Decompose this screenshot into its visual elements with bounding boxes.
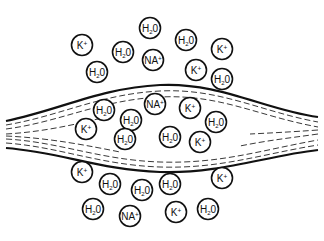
potassium-ion: K+ (166, 202, 187, 223)
molecules-layer: H20H20K+H20NA+K+K+H20H20H20NA+K+H20K+H20… (72, 18, 233, 227)
water-molecule: H20 (206, 112, 227, 133)
membrane-inner-line (240, 134, 318, 146)
water-molecule: H20 (113, 42, 134, 63)
sodium-ion: NA+ (120, 206, 141, 227)
potassium-ion: K+ (186, 60, 207, 81)
membrane-diagram: H20H20K+H20NA+K+K+H20H20H20NA+K+H20K+H20… (0, 0, 324, 241)
potassium-ion: K+ (212, 39, 233, 60)
water-molecule: H20 (83, 199, 104, 220)
potassium-ion: K+ (190, 132, 211, 153)
potassium-ion: K+ (76, 119, 97, 140)
membrane-inner-line (250, 130, 318, 134)
water-molecule: H20 (87, 62, 108, 83)
potassium-ion: K+ (212, 168, 233, 189)
water-molecule: H20 (176, 30, 197, 51)
water-molecule: H20 (160, 174, 181, 195)
water-molecule: H20 (212, 69, 233, 90)
membrane-wall-bottom (6, 148, 318, 172)
water-molecule: H20 (115, 129, 136, 150)
potassium-ion: K+ (180, 98, 201, 119)
water-molecule: H20 (160, 127, 181, 148)
water-molecule: H20 (198, 199, 219, 220)
sodium-ion: NA+ (143, 50, 164, 71)
sodium-ion: NA+ (145, 94, 166, 115)
potassium-ion: K+ (72, 162, 93, 183)
water-molecule: H20 (121, 110, 142, 131)
water-molecule: H20 (132, 180, 153, 201)
water-molecule: H20 (94, 100, 115, 121)
water-molecule: H20 (100, 174, 121, 195)
water-molecule: H20 (140, 18, 161, 39)
potassium-ion: K+ (72, 35, 93, 56)
